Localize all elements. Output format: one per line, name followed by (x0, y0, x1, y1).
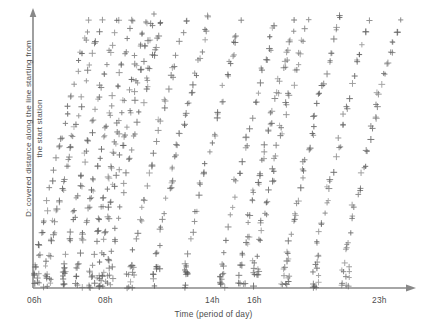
data-point-marker (256, 91, 261, 96)
data-point-marker (96, 29, 102, 35)
data-point-marker (250, 115, 256, 121)
data-point-marker (230, 53, 236, 59)
data-point-marker (124, 125, 129, 130)
data-point-marker (223, 238, 229, 244)
data-point-marker (162, 98, 169, 105)
figure-container: D: covered distance along the line start… (0, 0, 427, 332)
data-point-marker (297, 184, 304, 191)
data-point-marker (94, 238, 100, 244)
data-point-marker (316, 229, 322, 235)
data-point-marker (320, 81, 327, 88)
data-point-marker (144, 183, 150, 189)
data-point-marker (58, 136, 64, 142)
data-point-marker (311, 124, 317, 130)
data-point-marker (47, 253, 54, 260)
data-point-marker (395, 29, 401, 35)
data-point-marker (161, 97, 167, 103)
data-point-marker (56, 144, 62, 150)
data-point-marker (283, 111, 290, 118)
data-point-marker (85, 205, 92, 212)
data-point-marker (384, 61, 390, 67)
data-point-marker (343, 274, 349, 280)
data-point-marker (323, 211, 328, 216)
axis-layer (30, 8, 416, 291)
data-point-marker (53, 206, 60, 213)
data-point-marker (165, 86, 172, 93)
data-point-marker (61, 282, 66, 287)
data-point-marker (103, 229, 109, 235)
data-point-marker (319, 82, 326, 89)
data-point-marker (102, 230, 108, 236)
data-point-marker (302, 26, 308, 32)
data-point-marker (106, 265, 113, 272)
data-point-marker (100, 195, 106, 201)
data-point-marker (334, 27, 339, 32)
data-point-marker (173, 142, 179, 148)
data-point-marker (237, 262, 243, 268)
data-point-marker (200, 49, 205, 54)
data-point-marker (330, 169, 337, 176)
data-point-marker (196, 192, 203, 199)
data-point-marker (66, 157, 72, 163)
x-tick-label-06h: 06h (27, 295, 42, 305)
data-point-marker (144, 75, 149, 80)
data-point-marker (117, 204, 122, 209)
data-point-marker (112, 30, 118, 36)
data-point-marker (150, 150, 156, 156)
data-point-marker (281, 65, 287, 71)
data-point-marker (90, 176, 96, 182)
data-point-marker (127, 155, 133, 161)
data-point-marker (65, 111, 70, 116)
data-point-marker (335, 135, 341, 141)
data-point-marker (342, 260, 348, 266)
data-point-marker (97, 259, 102, 264)
data-point-marker (85, 29, 90, 34)
data-point-marker (398, 17, 403, 22)
data-point-marker (324, 71, 331, 78)
data-point-marker (306, 147, 312, 153)
data-point-marker (326, 198, 331, 203)
data-point-marker (145, 65, 151, 71)
data-point-marker (44, 207, 51, 214)
data-point-marker (78, 103, 85, 110)
data-point-marker (101, 134, 106, 139)
data-point-marker (217, 280, 223, 286)
data-point-marker (269, 120, 275, 126)
data-point-marker (112, 226, 118, 232)
data-point-marker (251, 265, 257, 271)
data-point-marker (63, 121, 68, 126)
data-point-marker (197, 180, 203, 186)
data-point-marker (359, 42, 364, 47)
data-point-marker (95, 163, 101, 169)
data-point-marker (121, 180, 127, 186)
data-point-marker (367, 136, 374, 143)
data-point-marker (347, 269, 352, 274)
data-point-marker (363, 147, 370, 154)
data-point-marker (141, 197, 148, 204)
data-point-marker (68, 144, 73, 149)
data-point-marker (333, 153, 340, 160)
data-point-marker (285, 238, 292, 245)
data-point-marker (157, 243, 162, 248)
data-point-marker (128, 17, 135, 24)
data-point-marker (109, 103, 115, 109)
data-point-marker (76, 113, 81, 118)
data-point-marker (105, 186, 110, 191)
data-point-marker (272, 95, 279, 102)
data-point-marker (138, 67, 144, 73)
data-point-marker (271, 169, 276, 174)
data-point-marker (378, 81, 385, 88)
data-point-marker (108, 113, 114, 119)
data-point-marker (316, 253, 321, 258)
data-point-marker (307, 145, 314, 152)
data-point-marker (182, 260, 189, 267)
data-point-marker (256, 237, 261, 242)
data-point-marker (94, 228, 100, 234)
data-point-marker (315, 253, 322, 260)
data-point-marker (390, 39, 395, 44)
data-point-marker (204, 12, 210, 18)
data-point-marker (201, 169, 207, 175)
data-point-marker (84, 67, 91, 74)
data-point-marker (67, 229, 74, 236)
data-point-marker (131, 88, 138, 95)
